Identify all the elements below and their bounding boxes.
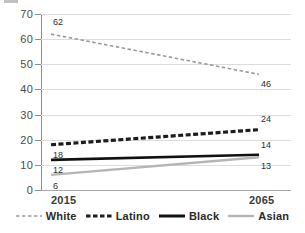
- y-tick-label-60: 60: [7, 34, 33, 45]
- series-lines: [41, 14, 291, 190]
- legend-item-white[interactable]: White: [16, 210, 77, 222]
- legend-item-asian[interactable]: Asian: [228, 210, 289, 222]
- legend-swatch-asian-icon: [228, 211, 254, 221]
- point-label-latino-2065: 24: [261, 115, 271, 124]
- y-tick-label-50: 50: [7, 59, 33, 70]
- point-label-asian-2065: 13: [261, 162, 271, 171]
- y-tick-label-70: 70: [7, 9, 33, 20]
- legend-swatch-black-icon: [159, 211, 185, 221]
- y-tick-0: [35, 190, 41, 191]
- y-tick-label-40: 40: [7, 84, 33, 95]
- series-line-latino: [51, 130, 259, 145]
- gridline-0: [41, 190, 291, 191]
- series-line-white: [51, 34, 259, 74]
- point-label-white-2065: 46: [261, 80, 271, 89]
- point-label-asian-2015: 6: [53, 182, 58, 191]
- x-tick-label-2065: 2065: [249, 194, 274, 206]
- point-label-black-2065: 14: [261, 141, 271, 150]
- cropped-header-artifact: [4, 0, 18, 3]
- legend-label-white: White: [46, 210, 77, 222]
- chart-legend: White Latino Black Asian: [0, 210, 305, 222]
- y-tick-label-30: 30: [7, 110, 33, 121]
- point-label-latino-2015: 18: [53, 151, 63, 160]
- point-label-white-2015: 62: [53, 18, 63, 27]
- y-tick-label-20: 20: [7, 135, 33, 146]
- y-tick-label-10: 10: [7, 160, 33, 171]
- legend-swatch-latino-icon: [86, 211, 112, 221]
- y-tick-label-0: 0: [7, 185, 33, 196]
- x-tick-label-2015: 2015: [51, 194, 76, 206]
- point-label-black-2015: 12: [53, 166, 63, 175]
- legend-item-black[interactable]: Black: [159, 210, 219, 222]
- legend-swatch-white-icon: [16, 211, 42, 221]
- line-chart: 010203040506070 2015 2065 62461824121461…: [0, 0, 305, 233]
- legend-label-black: Black: [189, 210, 219, 222]
- legend-label-asian: Asian: [258, 210, 289, 222]
- legend-item-latino[interactable]: Latino: [86, 210, 150, 222]
- legend-label-latino: Latino: [116, 210, 150, 222]
